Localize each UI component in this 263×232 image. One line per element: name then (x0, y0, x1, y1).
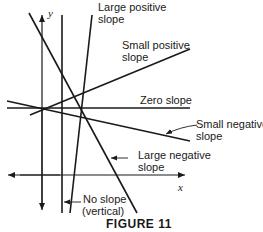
y-axis-label: y (48, 7, 53, 19)
large-negative-slope-line (29, 13, 137, 213)
x-axis-label: x (178, 181, 183, 193)
zero-slope-label: Zero slope (140, 94, 192, 106)
diagram-canvas (0, 0, 263, 232)
figure-caption: FIGURE 11 (106, 217, 172, 231)
vertical-label-1: No slope (83, 193, 126, 205)
large-negative-label-1: Large negative (138, 149, 211, 161)
slope-diagram: y x Large positive slope Small positive … (0, 0, 263, 232)
small-positive-label-1: Small positive (122, 39, 190, 51)
large-negative-label-2: slope (138, 161, 164, 173)
small-negative-label-2: slope (196, 130, 222, 142)
large-positive-label-2: slope (98, 13, 124, 25)
small-negative-slope-line (7, 101, 190, 141)
large-positive-slope-line (70, 15, 92, 213)
small-positive-label-2: slope (122, 51, 148, 63)
small-negative-label-1: Small negative (196, 118, 263, 130)
large-positive-label-1: Large positive (98, 1, 167, 13)
small-negative-leader (166, 125, 197, 134)
vertical-label-2: (vertical) (82, 205, 124, 217)
